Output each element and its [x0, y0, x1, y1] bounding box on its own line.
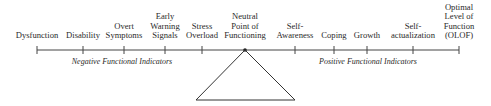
scale-point-label: Dysfunction [16, 31, 59, 41]
scale-point-label: Self- actualization [391, 22, 435, 41]
scale-point-label: Early Warning Signals [150, 12, 179, 41]
scale-point-label: Neutral Point of Functioning [224, 12, 266, 41]
negative-indicators-label: Negative Functional Indicators [72, 57, 172, 66]
scale-point-label: Coping [321, 31, 346, 41]
scale-point-label: Overt Symptoms [106, 22, 143, 41]
positive-indicators-label: Positive Functional Indicators [319, 57, 417, 66]
scale-point-label: Self- Awareness [277, 22, 314, 41]
fulcrum-triangle [196, 50, 295, 100]
scale-point-label: Optimal Level of Function (OLOF) [444, 3, 475, 41]
scale-point-label: Stress Overload [186, 22, 218, 41]
scale-point-label: Growth [354, 31, 380, 41]
scale-point-label: Disability [66, 31, 100, 41]
